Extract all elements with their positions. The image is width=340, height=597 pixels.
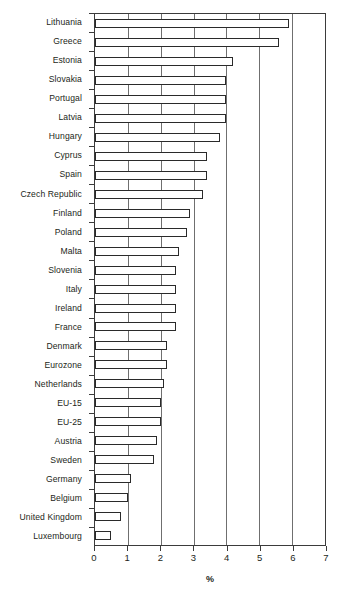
category-label: Czech Republic <box>0 184 88 203</box>
bar-chart: LithuaniaGreeceEstoniaSlovakiaPortugalLa… <box>0 0 340 597</box>
bar <box>95 247 179 256</box>
bar <box>95 341 167 350</box>
bar-row <box>95 318 325 337</box>
bar <box>95 512 121 521</box>
bar <box>95 114 226 123</box>
bar-row <box>95 261 325 280</box>
bar <box>95 190 203 199</box>
category-label: Luxembourg <box>0 527 88 546</box>
bar-row <box>95 242 325 261</box>
category-label: Spain <box>0 165 88 184</box>
bar <box>95 285 176 294</box>
bar <box>95 360 167 369</box>
category-label: Belgium <box>0 489 88 508</box>
category-label: Denmark <box>0 337 88 356</box>
bar-row <box>95 52 325 71</box>
category-axis-labels: LithuaniaGreeceEstoniaSlovakiaPortugalLa… <box>0 13 88 546</box>
bar-row <box>95 90 325 109</box>
category-label: Netherlands <box>0 375 88 394</box>
category-label: Germany <box>0 470 88 489</box>
bar-row <box>95 507 325 526</box>
bar-row <box>95 280 325 299</box>
x-axis-tick-label: 7 <box>316 552 336 563</box>
category-label: Latvia <box>0 108 88 127</box>
category-label: Poland <box>0 222 88 241</box>
category-label: Finland <box>0 203 88 222</box>
bar <box>95 266 176 275</box>
bar <box>95 398 161 407</box>
x-axis-tick-label: 3 <box>183 552 203 563</box>
bar <box>95 493 128 502</box>
bar-row <box>95 526 325 545</box>
category-label: Austria <box>0 432 88 451</box>
bar <box>95 209 190 218</box>
category-label: Slovenia <box>0 260 88 279</box>
bar <box>95 322 176 331</box>
x-axis-tick-label: 1 <box>117 552 137 563</box>
category-label: Greece <box>0 32 88 51</box>
bar <box>95 133 220 142</box>
bar-row <box>95 488 325 507</box>
x-axis-tick <box>160 546 161 551</box>
x-axis-tick <box>127 546 128 551</box>
bar-row <box>95 336 325 355</box>
bar <box>95 228 187 237</box>
category-label: Sweden <box>0 451 88 470</box>
bar <box>95 57 233 66</box>
bar <box>95 171 207 180</box>
bar-row <box>95 147 325 166</box>
bar-row <box>95 204 325 223</box>
bar <box>95 455 154 464</box>
category-label: Malta <box>0 241 88 260</box>
bar-row <box>95 450 325 469</box>
bar <box>95 304 176 313</box>
plot-area <box>94 13 326 546</box>
bar-row <box>95 71 325 90</box>
x-axis-tick <box>260 546 261 551</box>
bar <box>95 474 131 483</box>
category-label: Ireland <box>0 298 88 317</box>
bar-row <box>95 374 325 393</box>
bar <box>95 417 161 426</box>
category-label: Lithuania <box>0 13 88 32</box>
bar <box>95 379 164 388</box>
bar <box>95 76 226 85</box>
x-axis-tick <box>227 546 228 551</box>
bar <box>95 19 289 28</box>
category-label: EU-15 <box>0 394 88 413</box>
bar <box>95 531 111 540</box>
bar-row <box>95 223 325 242</box>
bar-row <box>95 128 325 147</box>
x-axis-tick <box>326 546 327 551</box>
x-axis-tick-label: 5 <box>250 552 270 563</box>
category-label: Eurozone <box>0 356 88 375</box>
x-axis-tick <box>94 546 95 551</box>
x-axis-tick <box>193 546 194 551</box>
x-axis-title: % <box>94 574 326 584</box>
x-axis-tick <box>293 546 294 551</box>
bar-row <box>95 299 325 318</box>
x-axis-tick-label: 0 <box>84 552 104 563</box>
bar-row <box>95 109 325 128</box>
bar-row <box>95 431 325 450</box>
category-label: Slovakia <box>0 70 88 89</box>
x-axis: 01234567 <box>94 546 326 547</box>
category-label: Hungary <box>0 127 88 146</box>
category-label: Italy <box>0 279 88 298</box>
bar <box>95 38 279 47</box>
category-label: EU-25 <box>0 413 88 432</box>
x-axis-tick-label: 4 <box>217 552 237 563</box>
bar-row <box>95 33 325 52</box>
category-label: Estonia <box>0 51 88 70</box>
category-label: France <box>0 318 88 337</box>
x-axis-tick-label: 2 <box>150 552 170 563</box>
bar <box>95 436 157 445</box>
category-label: Cyprus <box>0 146 88 165</box>
bar-row <box>95 166 325 185</box>
bar-row <box>95 355 325 374</box>
category-label: United Kingdom <box>0 508 88 527</box>
category-label: Portugal <box>0 89 88 108</box>
bar <box>95 152 207 161</box>
x-axis-tick-label: 6 <box>283 552 303 563</box>
bar-row <box>95 412 325 431</box>
